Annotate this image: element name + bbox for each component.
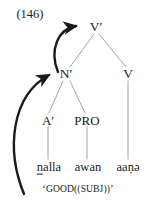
gloss-arguments: ((SUBJ))	[74, 183, 110, 194]
branch-vbar-v	[99, 34, 126, 67]
linguistic-tree-figure: (146) V′ N′ V A′ PRO nalla awan aaṇə ʻGO…	[0, 0, 153, 204]
branch-nbar-pro	[70, 81, 85, 113]
branch-vbar-nbar	[70, 34, 94, 67]
gloss-close-quote: ʼ	[110, 182, 114, 194]
node-n-bar: N′	[60, 67, 73, 81]
arrow-gloss-to-nbar	[14, 75, 49, 194]
preterminal-pro: PRO	[74, 114, 99, 127]
node-v: V	[123, 67, 133, 81]
terminal-word-nalla: nalla	[37, 161, 61, 174]
arrow-nbar-to-vbar	[54, 26, 76, 72]
terminal-word-aana: aaṇə	[117, 161, 140, 174]
gloss-predicate: GOOD	[46, 183, 74, 194]
terminal-nalla-rest: alla	[43, 160, 61, 174]
tree-branches	[48, 34, 128, 159]
terminal-word-awan: awan	[75, 161, 101, 174]
gloss-line: ʻGOOD((SUBJ))ʼ	[42, 183, 114, 194]
node-v-bar: V′	[90, 20, 103, 34]
branch-nbar-abar	[49, 81, 63, 113]
preterminal-a-bar: A′	[42, 114, 54, 127]
